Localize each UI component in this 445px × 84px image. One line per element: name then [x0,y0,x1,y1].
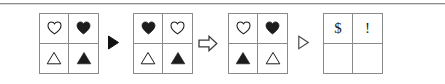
panel-2-cell-bottom-right[interactable] [163,44,192,74]
panel-1-grid [39,13,99,74]
top-divider-rule-shadow [0,4,445,5]
dollar-sign-icon: $ [334,21,342,36]
heart-filled-icon [265,21,280,35]
heart-filled-icon [141,21,156,35]
heart-outline-icon [236,21,251,35]
panel-4-cell-bottom-right[interactable] [353,44,382,74]
puzzle-canvas: $ ! [0,0,445,84]
triangle-outline-icon [265,51,281,65]
triangle-filled-icon [76,51,92,65]
heart-outline-icon [170,21,185,35]
panel-4-cell-top-left[interactable]: $ [324,14,353,44]
heart-filled-icon [76,21,91,35]
panel-2-cell-top-left[interactable] [134,14,163,44]
panel-3-cell-bottom-left[interactable] [229,44,258,74]
panel-2-grid [133,13,193,74]
panel-2-cell-bottom-left[interactable] [134,44,163,74]
panel-3-cell-bottom-right[interactable] [258,44,287,74]
panel-4-cell-bottom-left[interactable] [324,44,353,74]
panel-3-cell-top-left[interactable] [229,14,258,44]
triangle-filled-icon [235,51,251,65]
panel-4-cell-top-right[interactable]: ! [353,14,382,44]
triangle-outline-icon [46,51,62,65]
panel-1-cell-bottom-left[interactable] [40,44,69,74]
panel-1-cell-top-right[interactable] [69,14,98,44]
heart-outline-icon [47,21,62,35]
separator-3-triangle-right-outline-icon [297,35,310,50]
panel-1-cell-bottom-right[interactable] [69,44,98,74]
panel-4-grid: $ ! [323,13,383,74]
panel-2-cell-top-right[interactable] [163,14,192,44]
triangle-outline-icon [140,51,156,65]
triangle-filled-icon [170,51,186,65]
panel-1-cell-top-left[interactable] [40,14,69,44]
panel-3-grid [228,13,288,74]
separator-2-block-arrow-right-outline-icon [198,35,218,52]
separator-1-triangle-right-filled-icon [107,35,120,50]
panel-3-cell-top-right[interactable] [258,14,287,44]
exclamation-mark-icon: ! [365,21,370,36]
